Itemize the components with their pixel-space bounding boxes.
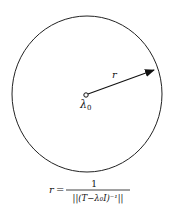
- formula-denominator: ||(T−λ₀I)⁻¹||: [73, 193, 124, 204]
- formula: r = 1 ||(T−λ₀I)⁻¹||: [49, 179, 130, 204]
- formula-numerator: 1: [91, 179, 97, 189]
- resolvent-circle-diagram: r λ0 r = 1 ||(T−λ₀I)⁻¹||: [0, 0, 172, 219]
- center-point: [84, 93, 88, 97]
- formula-lhs: r: [49, 184, 55, 195]
- formula-equals: =: [56, 184, 64, 195]
- center-label: λ0: [79, 98, 91, 112]
- radius-label: r: [112, 69, 118, 80]
- radius-arrow: [88, 70, 154, 94]
